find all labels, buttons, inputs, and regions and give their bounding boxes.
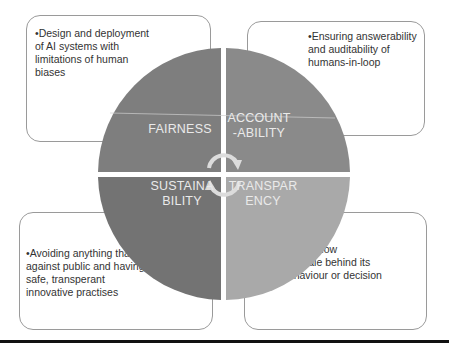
- fairness-label-text: FAIRNESS: [140, 122, 220, 137]
- accountability-label-line2: -ABILITY: [226, 126, 292, 141]
- quadrant-circle: [0, 0, 449, 353]
- accountability-label-line1: ACCOUNT: [226, 111, 292, 126]
- transparency-label-line1: TRANSPAR: [228, 179, 298, 194]
- accountability-label: ACCOUNT -ABILITY: [226, 111, 292, 141]
- transparency-label: TRANSPAR ENCY: [228, 179, 298, 209]
- sustainability-label-line2: BILITY: [142, 194, 222, 209]
- fairness-label: FAIRNESS: [140, 122, 220, 137]
- sustainability-label-line1: SUSTAINA: [142, 179, 222, 194]
- sustainability-label: SUSTAINA BILITY: [142, 179, 222, 209]
- bottom-divider: [0, 340, 449, 343]
- transparency-label-line2: ENCY: [228, 194, 298, 209]
